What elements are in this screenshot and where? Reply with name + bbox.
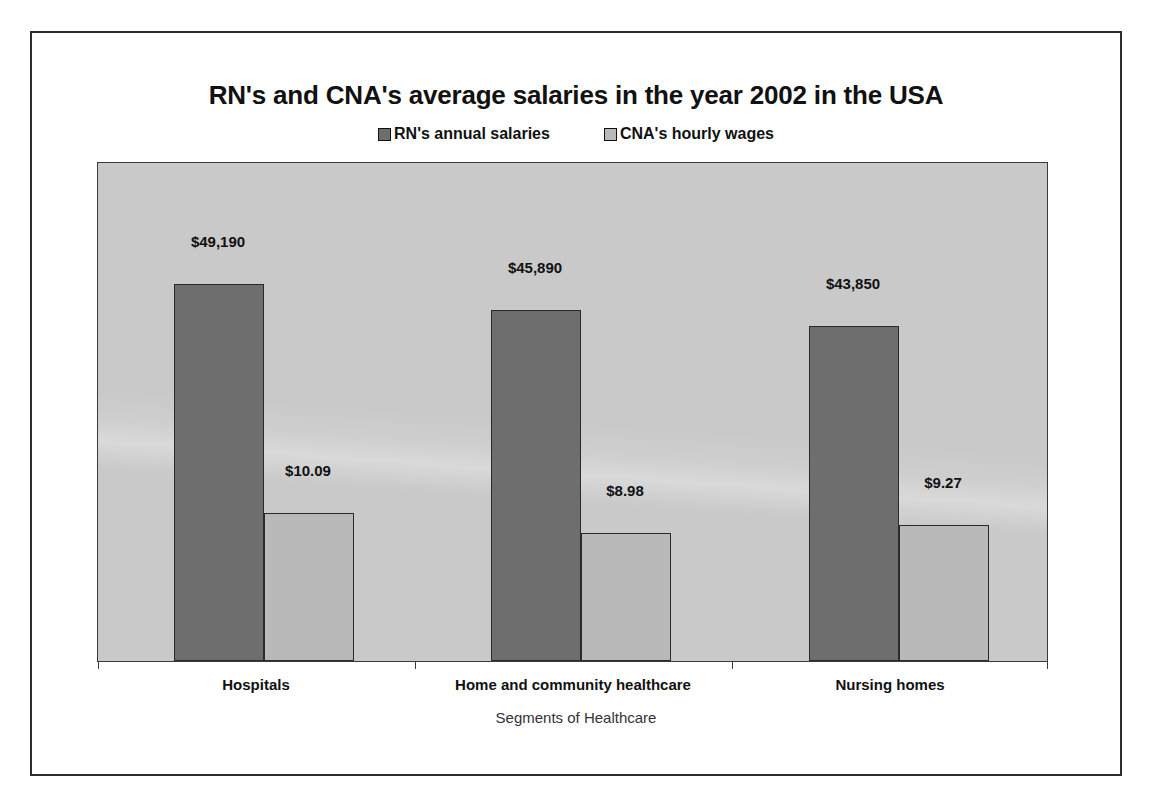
- legend-swatch-icon-rn: [378, 128, 391, 141]
- axis-tick-0: [98, 662, 99, 669]
- category-label-nursing-homes: Nursing homes: [835, 676, 944, 693]
- bar-home-community-rn[interactable]: [491, 310, 581, 661]
- bar-hospitals-cna[interactable]: [264, 513, 354, 661]
- bar-nursing-homes-cna[interactable]: [899, 525, 989, 661]
- category-label-home-community-healthcare: Home and community healthcare: [455, 676, 691, 693]
- legend-swatch-icon-cna: [604, 128, 617, 141]
- legend-item-rn-annual-salaries[interactable]: RN's annual salaries: [378, 125, 550, 143]
- chart-frame: RN's and CNA's average salaries in the y…: [30, 31, 1122, 776]
- chart-legend: RN's annual salaries CNA's hourly wages: [32, 125, 1120, 143]
- chart-title: RN's and CNA's average salaries in the y…: [32, 80, 1120, 111]
- bar-nursing-homes-rn[interactable]: [809, 326, 899, 661]
- bar-value-label-nursing-homes-rn: $43,850: [826, 275, 880, 292]
- axis-tick-1: [415, 662, 416, 669]
- legend-label-cna: CNA's hourly wages: [620, 125, 774, 143]
- bar-value-label-home-community-cna: $8.98: [606, 482, 644, 499]
- bar-value-label-hospitals-rn: $49,190: [191, 233, 245, 250]
- legend-label-rn: RN's annual salaries: [394, 125, 550, 143]
- axis-tick-2: [732, 662, 733, 669]
- axis-tick-3: [1047, 662, 1048, 669]
- legend-item-cna-hourly-wages[interactable]: CNA's hourly wages: [604, 125, 774, 143]
- bar-home-community-cna[interactable]: [581, 533, 671, 661]
- category-label-hospitals: Hospitals: [222, 676, 290, 693]
- bar-value-label-nursing-homes-cna: $9.27: [924, 474, 962, 491]
- x-axis-title: Segments of Healthcare: [32, 709, 1120, 726]
- bar-value-label-home-community-rn: $45,890: [508, 259, 562, 276]
- bar-value-label-hospitals-cna: $10.09: [285, 462, 331, 479]
- bar-hospitals-rn[interactable]: [174, 284, 264, 661]
